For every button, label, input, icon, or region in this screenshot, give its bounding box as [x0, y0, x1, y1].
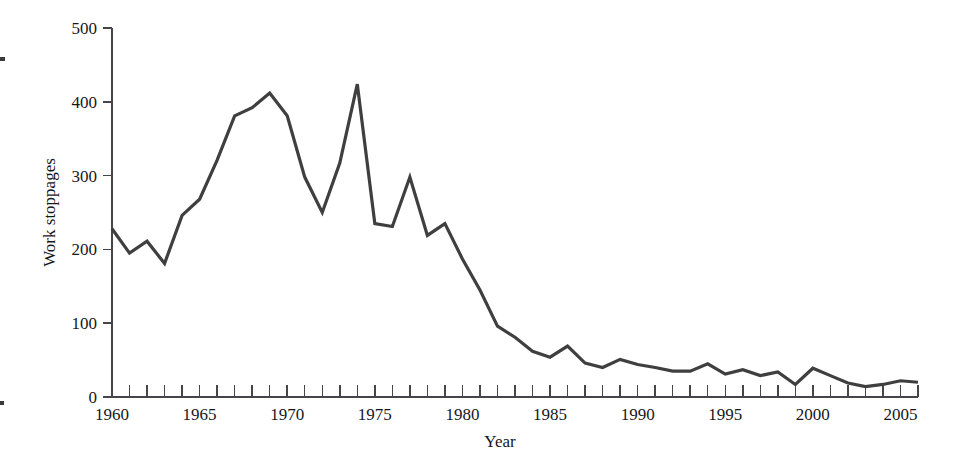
y-tick-label-500: 500	[72, 19, 98, 38]
x-tick-label-1975: 1975	[358, 405, 392, 424]
line-chart: 0100200300400500 19601965197019751980198…	[0, 0, 955, 467]
x-tick-label-2005: 2005	[883, 405, 917, 424]
x-tick-label-1965: 1965	[183, 405, 217, 424]
y-tick-label-400: 400	[72, 93, 98, 112]
x-tick-label-1995: 1995	[708, 405, 742, 424]
x-tick-label-1990: 1990	[621, 405, 655, 424]
x-tick-label-1970: 1970	[270, 405, 304, 424]
x-axis-title: Year	[484, 432, 516, 451]
x-axis-tick-labels: 1960196519701975198019851990199520002005	[95, 405, 917, 424]
y-axis-title: Work stoppages	[40, 158, 59, 267]
y-axis-ticks	[103, 28, 112, 397]
chart-figure: 0100200300400500 19601965197019751980198…	[0, 0, 955, 467]
page-edge-mark-left-bottom	[0, 401, 4, 405]
x-tick-label-1980: 1980	[445, 405, 479, 424]
x-tick-label-2000: 2000	[796, 405, 830, 424]
data-series-line	[112, 84, 918, 387]
y-tick-label-200: 200	[72, 240, 98, 259]
x-axis-ticks	[112, 385, 918, 397]
y-tick-label-100: 100	[72, 314, 98, 333]
x-tick-label-1960: 1960	[95, 405, 129, 424]
y-axis-tick-labels: 0100200300400500	[72, 19, 98, 407]
page-edge-mark-left-top	[0, 57, 5, 61]
x-tick-label-1985: 1985	[533, 405, 567, 424]
y-tick-label-300: 300	[72, 167, 98, 186]
